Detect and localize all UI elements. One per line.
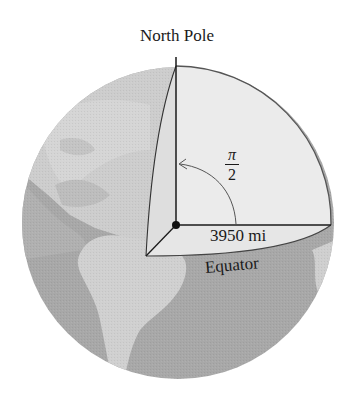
globe-figure [0, 0, 356, 406]
center-point [172, 221, 180, 229]
angle-label: π 2 [224, 147, 240, 184]
angle-numerator: π [224, 147, 240, 163]
wedge-face-quarter [176, 66, 331, 225]
fraction-bar [225, 164, 239, 165]
globe-diagram: North Pole π 2 3950 mi Equator [0, 0, 356, 406]
radius-label: 3950 mi [210, 226, 266, 246]
north-pole-label: North Pole [0, 26, 356, 46]
angle-denominator: 2 [224, 166, 240, 184]
